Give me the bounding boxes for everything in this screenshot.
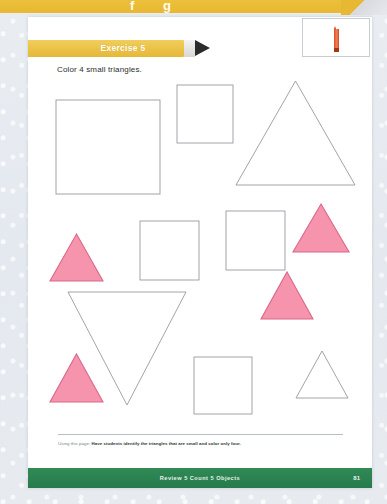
- band-glyph-right: g: [163, 0, 171, 12]
- usage-note-body: Have students identify the triangles tha…: [92, 441, 241, 446]
- note-divider: [58, 434, 343, 435]
- pencil-tip-icon: [195, 40, 210, 56]
- exercise-banner: Exercise 5: [28, 40, 212, 57]
- instruction-text: Color 4 small triangles.: [57, 65, 142, 74]
- shape-triangle-small-2[interactable]: [293, 204, 349, 252]
- shape-triangle-small-3[interactable]: [261, 272, 313, 319]
- usage-note: Using this page: Have students identify …: [58, 441, 348, 447]
- crayon-wrapper: [334, 29, 339, 49]
- pencil-ferrule: [184, 40, 195, 57]
- worksheet-page: Exercise 5 Color 4 small triangles. Usin…: [28, 17, 372, 488]
- exercise-label: Exercise 5: [68, 40, 178, 57]
- crayon-base: [334, 48, 339, 52]
- crayon-box: [302, 18, 370, 57]
- shapes-canvas: [28, 79, 372, 434]
- crayon-icon: [334, 26, 339, 52]
- page-footer-bar: Review 5 Count 5 Objects 81: [28, 468, 372, 488]
- top-cutoff-band: f g: [0, 0, 387, 13]
- shape-square-medium-2[interactable]: [140, 221, 199, 280]
- shapes-svg: [28, 79, 372, 434]
- shape-square-medium-3[interactable]: [226, 211, 285, 270]
- shape-square-medium-4[interactable]: [194, 357, 252, 414]
- shape-square-medium-1[interactable]: [177, 85, 233, 143]
- shape-triangle-small-1[interactable]: [50, 234, 103, 281]
- shape-triangle-large-1[interactable]: [236, 81, 355, 185]
- top-band-corner-fold: [341, 0, 387, 15]
- shape-triangle-small-4[interactable]: [296, 351, 348, 398]
- shape-triangle-small-5[interactable]: [50, 354, 103, 402]
- footer-title: Review 5 Count 5 Objects: [28, 468, 372, 488]
- shape-square-large-1[interactable]: [56, 100, 160, 194]
- band-glyph-left: f: [130, 0, 135, 12]
- usage-note-lead: Using this page:: [58, 441, 90, 446]
- page-number: 81: [353, 468, 360, 488]
